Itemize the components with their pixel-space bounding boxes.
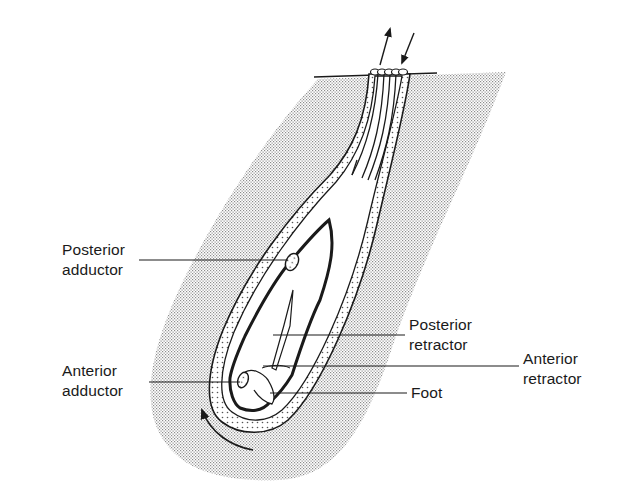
label-line: Posterior <box>409 315 472 335</box>
label-line: retractor <box>523 369 582 389</box>
label-line: Posterior <box>62 240 125 260</box>
label-posterior-retractor: Posterior retractor <box>409 315 472 355</box>
label-anterior-retractor: Anterior retractor <box>523 349 582 389</box>
label-anterior-adductor: Anterior adductor <box>62 361 123 401</box>
label-foot: Foot <box>411 383 442 403</box>
label-line: adductor <box>62 260 125 280</box>
label-line: Anterior <box>523 349 582 369</box>
label-line: retractor <box>409 335 472 355</box>
label-line: adductor <box>62 381 123 401</box>
label-line: Foot <box>411 383 442 403</box>
inhalant-arrow-icon <box>402 33 414 63</box>
label-posterior-adductor: Posterior adductor <box>62 240 125 280</box>
exhalant-arrow-icon <box>380 29 390 65</box>
label-line: Anterior <box>62 361 123 381</box>
siphon-openings <box>371 69 408 75</box>
